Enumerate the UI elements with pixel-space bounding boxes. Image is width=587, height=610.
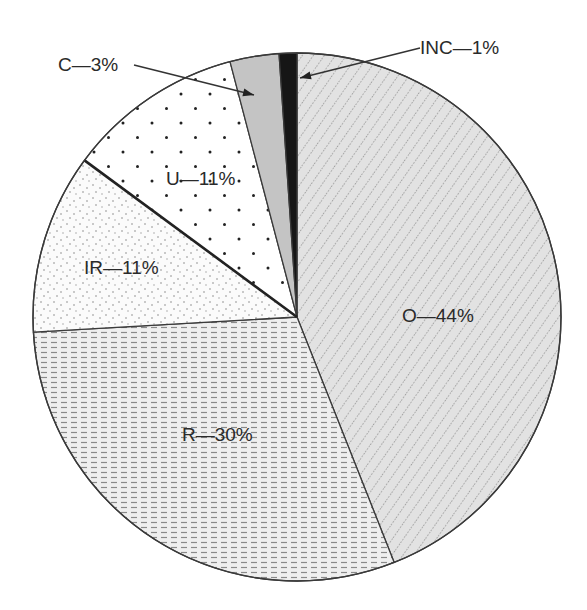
slice-label-ir: IR—11%: [84, 257, 159, 278]
slice-label-o: O—44%: [402, 305, 474, 326]
slice-label-u: U—11%: [166, 168, 235, 189]
slice-label-r: R—30%: [182, 424, 253, 445]
pie-chart: O—44%R—30%IR—11%U—11%C—3%INC—1%: [0, 0, 587, 610]
slice-label-inc: INC—1%: [420, 37, 499, 58]
slice-label-c: C—3%: [58, 54, 118, 75]
pie-slices: [33, 53, 561, 581]
